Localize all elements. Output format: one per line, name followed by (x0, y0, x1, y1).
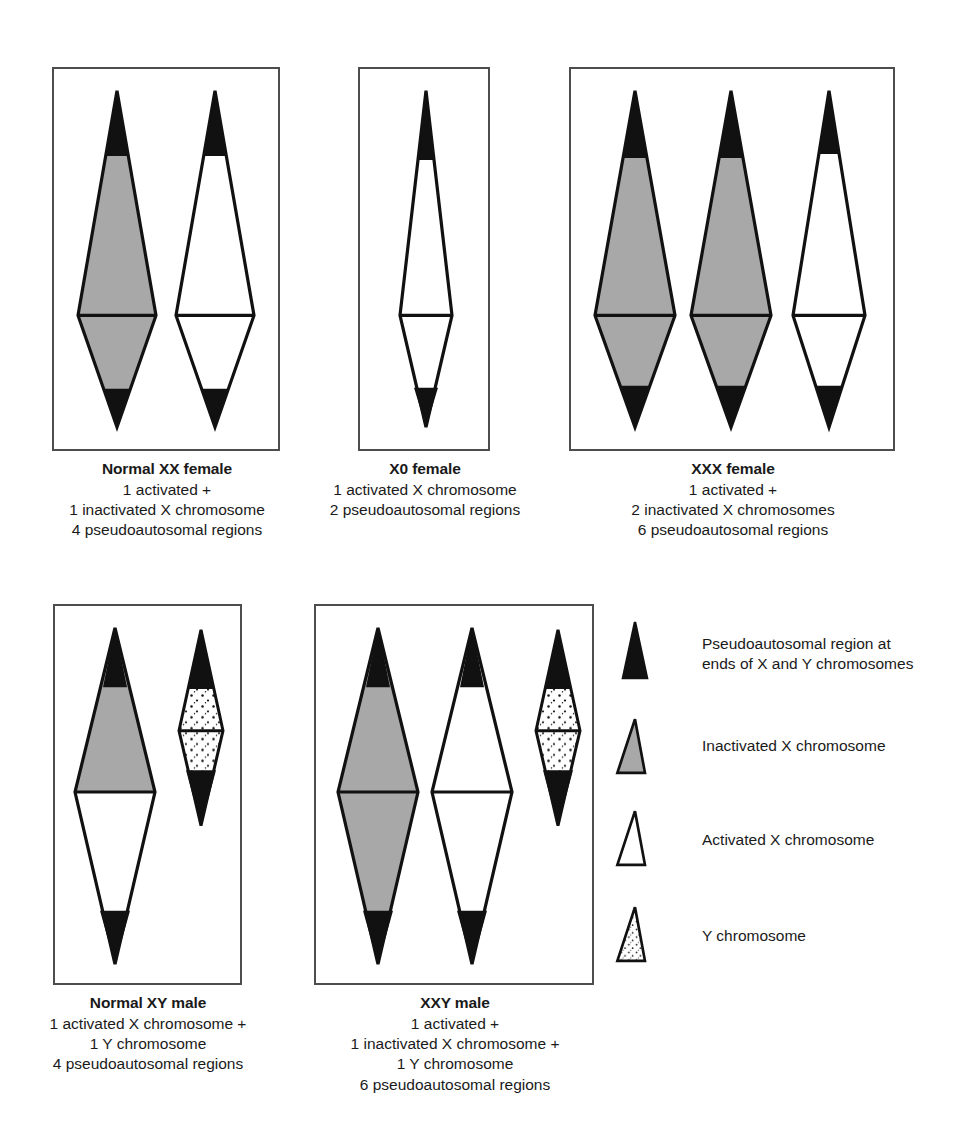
chromosome-activated-x (420, 606, 524, 983)
caption-line: 4 pseudoautosomal regions (8, 1054, 288, 1074)
caption-line: 6 pseudoautosomal regions (290, 1075, 620, 1095)
caption-title: Normal XX female (32, 459, 302, 479)
legend-item-label: Inactivated X chromosome (658, 708, 962, 756)
caption-line: 6 pseudoautosomal regions (588, 520, 878, 540)
legend-item-pseudoautosomal-region: Pseudoautosomal region at ends of X and … (612, 620, 962, 708)
legend-item-y-chromosome: Y chromosome (612, 896, 962, 986)
caption-normal-xx-female: Normal XX female 1 activated + 1 inactiv… (32, 459, 302, 541)
panel-xxx-female (569, 67, 895, 451)
caption-line: 1 activated + (290, 1014, 620, 1034)
caption-x0-female: X0 female 1 activated X chromosome 2 pse… (300, 459, 550, 520)
chromosome-activated-x (777, 69, 881, 449)
chromosome-activated-x (379, 69, 473, 449)
caption-line: 1 activated X chromosome (300, 480, 550, 500)
caption-line: 2 inactivated X chromosomes (588, 500, 878, 520)
legend-label-line: Pseudoautosomal region at (702, 634, 962, 654)
caption-line: 1 Y chromosome (290, 1054, 620, 1074)
caption-line: 1 activated X chromosome + (8, 1014, 288, 1034)
caption-line: 1 activated + (588, 480, 878, 500)
activated-x-chromosome-swatch-icon (612, 800, 658, 876)
caption-xxx-female: XXX female 1 activated + 2 inactivated X… (588, 459, 878, 541)
caption-line: 1 inactivated X chromosome + (290, 1034, 620, 1054)
legend: Pseudoautosomal region at ends of X and … (612, 620, 962, 986)
legend-item-label: Y chromosome (658, 896, 962, 946)
pseudoautosomal-region-swatch-icon (612, 620, 658, 682)
panel-normal-xx-female (52, 67, 280, 451)
chromosome-inactivated-x-2 (679, 69, 783, 449)
chromosome-activated-x (63, 606, 167, 983)
panel-xxy-male (314, 604, 594, 985)
chromosome-inactivated-x (70, 69, 164, 449)
legend-item-activated-x-chromosome: Activated X chromosome (612, 800, 962, 896)
legend-item-label: Pseudoautosomal region at ends of X and … (658, 620, 962, 674)
legend-item-label: Activated X chromosome (658, 800, 962, 850)
chromosome-inactivated-x (326, 606, 430, 983)
chromosome-inactivated-x-1 (583, 69, 687, 449)
chromosome-y (167, 606, 235, 983)
panel-normal-xy-male (53, 604, 242, 985)
caption-line: 2 pseudoautosomal regions (300, 500, 550, 520)
caption-title: XXY male (290, 993, 620, 1013)
caption-line: 1 activated + (32, 480, 302, 500)
y-chromosome-swatch-icon (612, 896, 658, 972)
caption-title: X0 female (300, 459, 550, 479)
panel-x0-female (358, 67, 490, 451)
inactivated-x-chromosome-swatch-icon (612, 708, 658, 784)
chromosome-y (524, 606, 592, 983)
legend-label-line: ends of X and Y chromosomes (702, 654, 962, 674)
figure-canvas: Normal XX female 1 activated + 1 inactiv… (0, 0, 976, 1148)
legend-label-line: Inactivated X chromosome (702, 736, 962, 756)
caption-title: XXX female (588, 459, 878, 479)
chromosome-activated-x (168, 69, 262, 449)
caption-xxy-male: XXY male 1 activated + 1 inactivated X c… (290, 993, 620, 1095)
legend-item-inactivated-x-chromosome: Inactivated X chromosome (612, 708, 962, 800)
caption-normal-xy-male: Normal XY male 1 activated X chromosome … (8, 993, 288, 1075)
legend-label-line: Y chromosome (702, 926, 962, 946)
caption-line: 1 Y chromosome (8, 1034, 288, 1054)
caption-line: 1 inactivated X chromosome (32, 500, 302, 520)
caption-title: Normal XY male (8, 993, 288, 1013)
caption-line: 4 pseudoautosomal regions (32, 520, 302, 540)
legend-label-line: Activated X chromosome (702, 830, 962, 850)
